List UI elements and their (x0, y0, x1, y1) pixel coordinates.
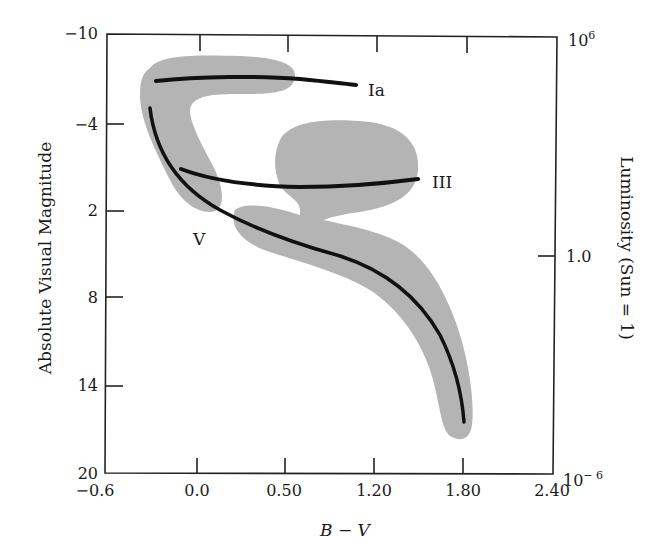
y2-tick-label-bottom: 10− 6 (563, 470, 603, 489)
y-tick-label: 2 (48, 203, 98, 219)
hr-diagram-plot (0, 0, 659, 556)
x-tick-label: 0.0 (167, 483, 227, 499)
x-tick-label: −0.6 (65, 483, 125, 499)
y-tick-label: 14 (48, 378, 98, 394)
curve-label-ia: Ia (368, 80, 385, 100)
region-main-sequence-band (233, 205, 472, 439)
y-tick-label: −10 (48, 26, 98, 42)
x-axis-title: B − V (320, 520, 370, 540)
curve-label-v: V (193, 229, 205, 249)
y2-tick-label-mid: 1.0 (566, 249, 591, 265)
y-tick-label: −4 (48, 117, 98, 133)
x-tick-label: 1.80 (433, 483, 493, 499)
x-tick-label: 1.20 (344, 483, 404, 499)
y2-tick-label-top: 106 (568, 30, 595, 49)
y-tick-label: 8 (48, 290, 98, 306)
y2-axis-title: Luminosity (Sun = 1) (617, 148, 637, 348)
y-axis-title: Absolute Visual Magnitude (35, 138, 55, 378)
y-tick-label: 20 (48, 466, 98, 482)
curve-label-iii: III (432, 172, 452, 192)
x-tick-label: 0.50 (254, 483, 314, 499)
